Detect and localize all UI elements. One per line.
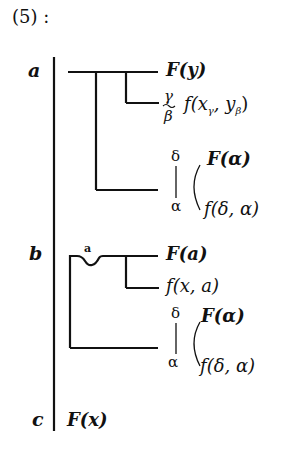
a-second-f: f(x <box>184 93 208 114</box>
a-second-sep: , y <box>214 93 236 114</box>
b-dip-label: a <box>84 243 91 254</box>
b-top-formula: F(a) <box>166 245 207 263</box>
a-branch-paren <box>194 165 200 210</box>
a-branch-alpha: α <box>171 199 181 214</box>
proof-tree-lines <box>0 0 303 454</box>
b-branch-alpha: α <box>168 355 178 370</box>
b-branch-top: F(α) <box>201 307 245 325</box>
b-second-formula: f(x, a) <box>166 277 219 295</box>
a-tilde-bottom: β <box>164 109 173 124</box>
c-formula: F(x) <box>67 411 108 429</box>
heading: (5) : <box>12 8 49 26</box>
a-branch-bottom: f(δ, α) <box>204 200 259 218</box>
a-top-formula: F(y) <box>166 61 206 79</box>
b-branch-bottom: f(δ, α) <box>200 357 255 375</box>
a-second-formula: f(xγ, yβ) <box>184 95 248 116</box>
a-tilde-top: γ <box>164 89 173 104</box>
b-top-dip-line <box>70 256 158 348</box>
a-second-close: ) <box>241 93 248 114</box>
label-a: a <box>28 61 40 80</box>
a-branch-delta: δ <box>171 149 180 164</box>
b-branch-delta: δ <box>171 306 180 321</box>
a-branch-top: F(α) <box>207 150 251 168</box>
label-c: c <box>32 410 44 429</box>
label-b: b <box>29 244 42 263</box>
